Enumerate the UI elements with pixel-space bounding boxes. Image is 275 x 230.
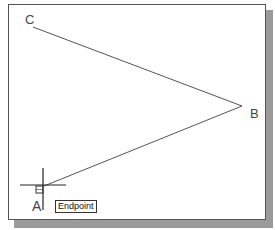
line-a-b[interactable] [44, 106, 242, 186]
point-label-c: C [25, 13, 34, 26]
osnap-tooltip: Endpoint [55, 200, 97, 213]
point-label-b: B [250, 107, 259, 120]
line-c-b[interactable] [33, 27, 242, 106]
drawing-canvas[interactable] [0, 0, 275, 230]
point-label-a: A [32, 199, 41, 213]
